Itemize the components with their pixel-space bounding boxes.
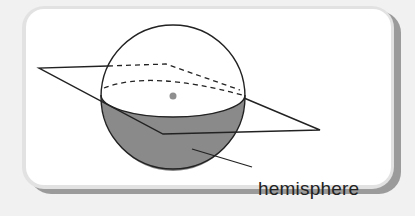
center-point — [170, 93, 177, 100]
hemisphere-label: hemisphere — [258, 178, 359, 200]
